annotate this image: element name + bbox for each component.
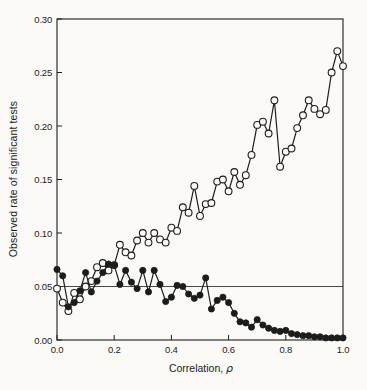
x-tick-label: 0.0 [51,344,64,355]
decreasing-series-point [157,281,163,287]
decreasing-series-point [288,331,294,337]
increasing-series-point [179,204,186,211]
chart-plot-area: 0.000.050.100.150.200.250.300.00.20.40.6… [0,0,367,390]
scanned-chart-figure: 0.000.050.100.150.200.250.300.00.20.40.6… [0,0,367,390]
decreasing-series-point [174,282,180,288]
increasing-series-point [328,69,335,76]
increasing-series-point [322,107,329,114]
decreasing-series-point [145,289,151,295]
decreasing-series-point [83,270,89,276]
increasing-series-point [59,299,66,306]
increasing-series-point [340,63,347,70]
decreasing-series-point [237,319,243,325]
decreasing-series-point [123,267,129,273]
decreasing-series-point [140,267,146,273]
x-axis-title: Correlation, ρ [169,362,233,375]
y-tick-label: 0.20 [34,121,52,132]
decreasing-series-point [323,335,329,341]
decreasing-series-point [340,335,346,341]
increasing-series-point [54,285,61,292]
y-tick-label: 0.05 [34,281,52,292]
decreasing-series-point [111,262,117,268]
rho-symbol: ρ [226,362,233,375]
increasing-series-point [174,228,181,235]
decreasing-series-point [180,283,186,289]
increasing-series-point [288,145,295,152]
increasing-series-point [305,97,312,104]
increasing-series-point [248,152,255,159]
increasing-series-point [334,48,341,55]
decreasing-series-point [266,325,272,331]
increasing-series-point [134,237,141,244]
x-tick-label: 1.0 [337,344,350,355]
increasing-series-point [208,200,215,207]
decreasing-series-point [271,327,277,333]
decreasing-series-point [100,270,106,276]
decreasing-series-point [105,261,111,267]
decreasing-series-point [134,286,140,292]
x-tick-label: 0.4 [165,344,178,355]
increasing-series-point [242,172,249,179]
y-tick-label: 0.25 [34,67,52,78]
increasing-series-point [82,283,89,290]
decreasing-series-point [226,300,232,306]
decreasing-series-point [311,334,317,340]
x-tick-label: 0.8 [279,344,292,355]
increasing-series-point [128,252,135,259]
increasing-series-point [225,188,232,195]
decreasing-series-point [203,275,209,281]
y-tick-label: 0.10 [34,228,52,239]
y-tick-label: 0.15 [34,174,52,185]
decreasing-series-point [128,279,134,285]
increasing-series-point [185,209,192,216]
increasing-series-point [139,230,146,237]
decreasing-series-point [208,306,214,312]
decreasing-series-point [186,291,192,297]
increasing-series-point [265,130,272,137]
decreasing-series-point [329,335,335,341]
increasing-series-point [191,183,198,190]
decreasing-series-point [300,333,306,339]
decreasing-series-point [168,294,174,300]
decreasing-series-point [191,295,197,301]
x-tick-label: 0.2 [108,344,121,355]
y-tick-label: 0.00 [34,335,52,346]
increasing-series-point [231,169,238,176]
decreasing-series-point [60,273,66,279]
decreasing-series-point [254,317,260,323]
decreasing-series-point [117,281,123,287]
increasing-series-point [220,176,227,183]
increasing-series-point [294,125,301,132]
increasing-series-point [271,97,278,104]
decreasing-series-point [277,328,283,334]
decreasing-series-point [54,266,60,272]
increasing-series-point [162,239,169,246]
decreasing-series-point [71,300,77,306]
decreasing-series-point [151,267,157,273]
decreasing-series-line [57,264,343,338]
decreasing-series-point [260,322,266,328]
decreasing-series-point [163,298,169,304]
x-axis-title-text: Correlation, [169,362,226,374]
decreasing-series-point [334,335,340,341]
decreasing-series-point [317,334,323,340]
increasing-series-point [237,181,244,188]
decreasing-series-point [294,332,300,338]
decreasing-series-point [214,297,220,303]
decreasing-series-point [283,327,289,333]
y-tick-label: 0.30 [34,14,52,25]
increasing-series-point [117,241,124,248]
decreasing-series-point [243,320,249,326]
decreasing-series-point [77,288,83,294]
increasing-series-point [311,106,318,113]
increasing-series-point [277,163,284,170]
x-tick-label: 0.6 [222,344,235,355]
increasing-series-point [260,118,267,125]
decreasing-series-point [306,333,312,339]
decreasing-series-point [88,289,94,295]
decreasing-series-point [65,304,71,310]
increasing-series-point [197,213,204,220]
decreasing-series-point [197,292,203,298]
decreasing-series-point [248,324,254,330]
increasing-series-point [300,112,307,119]
